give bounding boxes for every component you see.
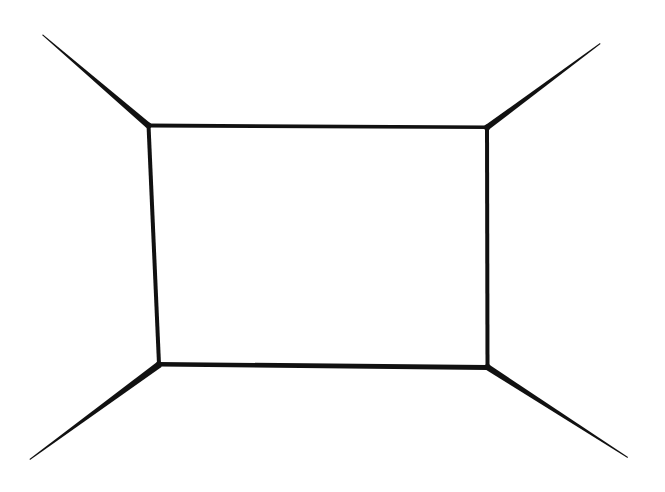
- back-wall-left-edge: [147, 125, 162, 364]
- corner-join-bottom-left: [156, 362, 162, 368]
- back-wall-right-edge: [485, 127, 490, 367]
- corner-join-top-left: [146, 123, 152, 129]
- corner-line-top-left: [42, 35, 150, 128]
- corner-line-top-right: [486, 43, 601, 130]
- back-wall-bottom-edge: [159, 362, 487, 370]
- back-wall-top-edge: [148, 124, 487, 130]
- corner-line-bottom-left: [30, 362, 162, 460]
- corner-join-top-right: [484, 125, 490, 131]
- corner-line-bottom-right: [486, 365, 629, 459]
- corner-join-bottom-right: [485, 364, 491, 370]
- room-perspective-drawing: [0, 0, 665, 492]
